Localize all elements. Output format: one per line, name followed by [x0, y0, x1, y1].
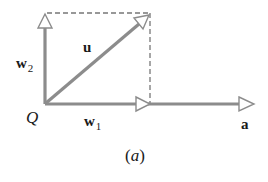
- label-w2-text: w: [16, 55, 27, 71]
- label-w1-subscript: 1: [96, 120, 102, 132]
- figure-caption: (a): [125, 146, 145, 164]
- vector-w1-arrowhead-icon: [136, 97, 150, 111]
- vector-u-shaft: [46, 24, 139, 103]
- label-origin-text: Q: [26, 108, 38, 127]
- vector-decomposition-diagram: u w2 w1 Q a (a): [0, 0, 268, 182]
- caption-text: (a): [125, 146, 145, 165]
- vector-w2-arrowhead-icon: [38, 14, 52, 28]
- vector-a-arrowhead-icon: [239, 97, 254, 111]
- label-a: a: [241, 117, 249, 132]
- label-u: u: [83, 40, 91, 55]
- label-origin-q: Q: [26, 109, 38, 126]
- label-a-text: a: [241, 116, 249, 132]
- label-w1: w1: [84, 114, 101, 129]
- label-w1-text: w: [84, 113, 95, 129]
- label-u-text: u: [83, 39, 91, 55]
- label-w2-subscript: 2: [28, 62, 34, 74]
- label-w2: w2: [16, 56, 33, 71]
